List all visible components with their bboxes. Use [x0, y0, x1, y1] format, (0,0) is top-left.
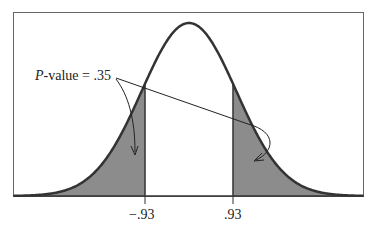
- left-tail-shaded-region: [14, 84, 145, 196]
- p-value-annotation: P-value = .35: [35, 68, 111, 84]
- tick-label-left: −.93: [129, 207, 154, 223]
- p-value-prefix: P: [35, 68, 44, 83]
- normal-curve-chart: [0, 0, 381, 234]
- right-tail-shaded-region: [233, 84, 363, 196]
- p-value-text: -value = .35: [44, 68, 111, 83]
- tick-label-right: .93: [224, 207, 242, 223]
- chart-frame: [14, 13, 364, 197]
- normal-curve: [14, 23, 363, 196]
